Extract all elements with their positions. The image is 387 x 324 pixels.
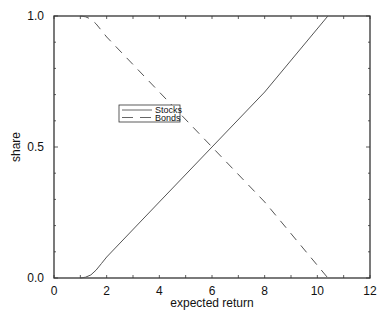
y-tick-label: 1.0 bbox=[27, 9, 44, 23]
series-lines bbox=[80, 16, 328, 278]
x-tick-label: 12 bbox=[363, 284, 377, 298]
series-stocks bbox=[80, 16, 328, 278]
x-tick-label: 10 bbox=[311, 284, 325, 298]
x-tick-label: 0 bbox=[51, 284, 58, 298]
x-tick-label: 2 bbox=[103, 284, 110, 298]
y-axis-title: share bbox=[9, 132, 23, 162]
series-bonds bbox=[80, 16, 328, 278]
x-tick-label: 8 bbox=[261, 284, 268, 298]
legend-label-bonds: Bonds bbox=[155, 113, 181, 123]
line-chart: 0246810120.00.51.0 expected return share… bbox=[0, 0, 387, 324]
legend: StocksBonds bbox=[119, 105, 183, 123]
y-tick-label: 0.5 bbox=[27, 140, 44, 154]
x-axis-title: expected return bbox=[170, 296, 253, 310]
y-tick-label: 0.0 bbox=[27, 271, 44, 285]
axis-ticks: 0246810120.00.51.0 bbox=[27, 9, 377, 298]
x-tick-label: 4 bbox=[156, 284, 163, 298]
